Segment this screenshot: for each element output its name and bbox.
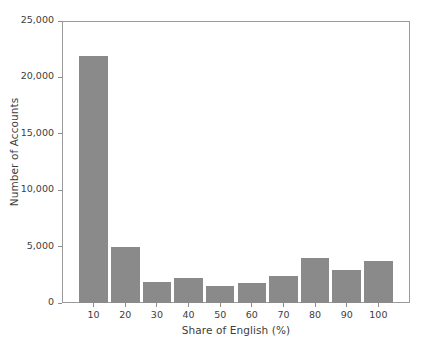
bar (79, 56, 108, 303)
x-axis-tick-mark (156, 303, 157, 307)
x-axis-tick-mark (188, 303, 189, 307)
bar (301, 258, 330, 303)
y-axis-tick-label: 20,000 (21, 70, 54, 81)
x-axis-tick-label: 80 (309, 309, 321, 320)
bar (238, 283, 267, 303)
x-axis-tick-mark (378, 303, 379, 307)
y-axis-title-text: Number of Accounts (8, 97, 20, 206)
x-axis-tick-label: 30 (151, 309, 163, 320)
x-axis-tick-label: 50 (214, 309, 226, 320)
x-axis-tick-label: 40 (182, 309, 194, 320)
x-axis-tick-mark (315, 303, 316, 307)
x-axis-tick-label: 70 (277, 309, 289, 320)
y-axis-tick-label: 15,000 (21, 127, 54, 138)
bar (364, 261, 393, 303)
x-axis-tick-label: 20 (119, 309, 131, 320)
y-axis-tick-label: 25,000 (21, 14, 54, 25)
y-axis-tick-label: 10,000 (21, 183, 54, 194)
x-axis-tick-label: 100 (369, 309, 387, 320)
y-axis-tick-label: 0 (48, 296, 54, 307)
bar (332, 270, 361, 303)
x-axis-tick-mark (251, 303, 252, 307)
chart-figure: Number of Accounts 05,00010,00015,00020,… (0, 0, 429, 346)
bar (143, 282, 172, 303)
y-axis-tick-label: 5,000 (27, 240, 54, 251)
x-axis-tick-mark (283, 303, 284, 307)
x-axis-tick-mark (125, 303, 126, 307)
x-axis-tick-mark (220, 303, 221, 307)
x-axis-tick-label: 10 (88, 309, 100, 320)
bar (269, 276, 298, 303)
y-axis-title: Number of Accounts (4, 0, 24, 303)
bars-layer (63, 22, 409, 303)
bar (206, 286, 235, 303)
x-axis-tick-mark (346, 303, 347, 307)
x-axis-tick-mark (93, 303, 94, 307)
x-axis-tick-label: 90 (341, 309, 353, 320)
x-axis-tick-label: 60 (246, 309, 258, 320)
bar (111, 247, 140, 303)
bar (174, 278, 203, 303)
x-axis-title: Share of English (%) (62, 324, 410, 336)
